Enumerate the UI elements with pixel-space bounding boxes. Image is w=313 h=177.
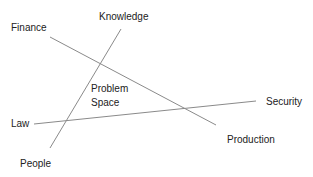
problem-space-label: Problem Space [91, 82, 128, 110]
problem-space-line2: Space [91, 96, 128, 110]
label-people: People [20, 158, 51, 170]
label-security: Security [266, 96, 302, 108]
label-production: Production [227, 134, 275, 146]
problem-space-line1: Problem [91, 82, 128, 96]
label-knowledge: Knowledge [99, 11, 148, 23]
label-law: Law [11, 118, 29, 130]
line-finance-production [50, 37, 216, 125]
label-finance: Finance [11, 22, 47, 34]
line-law-security [34, 101, 256, 124]
